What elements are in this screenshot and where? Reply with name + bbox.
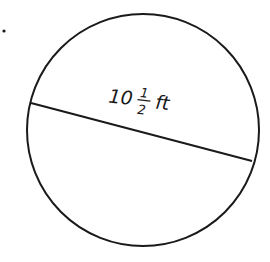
fraction-bar xyxy=(137,100,150,101)
diameter-label: 10 1 2 ft xyxy=(107,82,173,120)
measure-unit: ft xyxy=(154,91,172,115)
circle-diagram: 10 1 2 ft xyxy=(0,0,270,262)
measure-numerator: 1 xyxy=(139,85,149,101)
circle xyxy=(27,14,259,246)
bullet-dot xyxy=(2,29,5,32)
measure-whole: 10 xyxy=(108,85,134,109)
measure-denominator: 2 xyxy=(137,102,147,118)
